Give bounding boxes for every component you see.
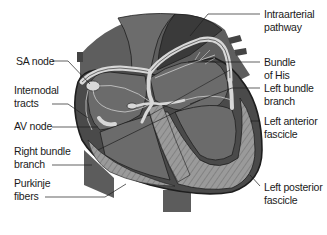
label-bundle-of-his: Bundle of His — [264, 56, 296, 82]
label-intraarterial-pathway: Intraarterial pathway — [264, 8, 315, 34]
label-purkinje-fibers: Purkinje fibers — [14, 177, 50, 203]
label-left-anterior-fascicle: Left anterior fascicle — [264, 115, 317, 141]
label-right-bundle-branch: Right bundle branch — [14, 145, 71, 171]
av-node-shape — [127, 103, 137, 109]
label-internodal-tracts: Internodal tracts — [14, 84, 59, 110]
label-left-posterior-fascicle: Left posterior fascicle — [264, 181, 322, 207]
heart — [75, 14, 262, 194]
label-left-bundle-branch: Left bundle branch — [264, 82, 314, 108]
label-sa-node: SA node — [16, 55, 54, 68]
label-av-node: AV node — [14, 120, 52, 133]
